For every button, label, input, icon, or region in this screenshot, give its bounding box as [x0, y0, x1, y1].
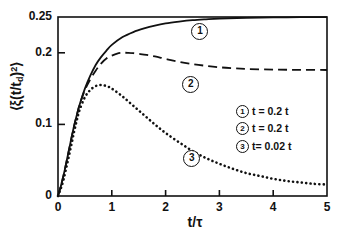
legend-label-3: t= 0.02 t [252, 140, 291, 152]
y-tick-label-0p2: 0.2 [6, 45, 52, 59]
x-tick-label-5: 5 [307, 200, 347, 214]
y-tick-label-0p25: 0.25 [6, 9, 52, 23]
x-tick-label-4: 4 [253, 200, 293, 214]
y-tick-label-0p1: 0.1 [6, 116, 52, 130]
legend-circled-number-1: 1 [236, 105, 249, 118]
legend-label-1: t = 0.2 t [252, 105, 288, 117]
x-axis-label: t/τ [0, 214, 350, 230]
legend-item-3: 3t= 0.02 t [236, 137, 291, 154]
chart-figure: ⟨ξ(t/td)2⟩ t/τ 00.10.20.25 012345 123 1t… [0, 0, 350, 236]
legend-circled-number-3: 3 [236, 140, 249, 153]
legend-item-2: 2t = 0.2 t [236, 119, 291, 136]
x-tick-label-2: 2 [146, 200, 186, 214]
x-tick-label-1: 1 [92, 200, 132, 214]
x-tick-label-3: 3 [199, 200, 239, 214]
legend-circled-number-2: 2 [236, 122, 249, 135]
legend-label-2: t = 0.2 t [252, 122, 288, 134]
x-tick-label-0: 0 [38, 200, 78, 214]
chart-legend: 1t = 0.2 t2t = 0.2 t3t= 0.02 t [236, 102, 291, 154]
legend-item-1: 1t = 0.2 t [236, 102, 291, 119]
